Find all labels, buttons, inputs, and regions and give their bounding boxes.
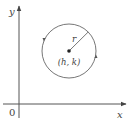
x-axis-label: x [117,109,123,120]
diagram-canvas: y 0 x r (h, k) [0,0,132,125]
origin-label: 0 [9,107,15,118]
y-axis-label: y [8,6,15,17]
center-point [67,49,71,53]
direction-arrow-left-icon [43,38,46,42]
direction-arrow-right-icon [95,55,98,59]
radius-label: r [72,34,77,44]
center-label: (h, k) [58,57,81,67]
